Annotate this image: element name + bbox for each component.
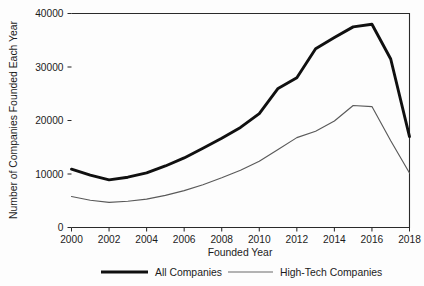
y-axis-title: Number of Companies Founded Each Year — [8, 20, 19, 219]
line-chart: 010000200003000040000 200020022004200620… — [0, 0, 424, 286]
y-tick-label: 10000 — [35, 169, 64, 180]
y-tick-label: 20000 — [35, 115, 64, 126]
x-tick-label: 2012 — [285, 234, 308, 245]
x-tick-label: 2000 — [60, 234, 83, 245]
chart-legend: All Companies High-Tech Companies — [101, 267, 382, 278]
y-tick-label: 30000 — [35, 62, 64, 73]
y-tick-label: 40000 — [35, 8, 64, 19]
x-axis-ticks — [72, 228, 410, 232]
x-axis-tick-labels: 2000200220042006200820102012201420162018 — [60, 234, 421, 245]
x-tick-label: 2018 — [398, 234, 421, 245]
y-tick-label: 0 — [58, 222, 64, 233]
y-axis-ticks — [68, 14, 72, 228]
x-tick-label: 2010 — [248, 234, 271, 245]
chart-figure: 010000200003000040000 200020022004200620… — [0, 0, 424, 286]
x-tick-label: 2002 — [98, 234, 121, 245]
x-tick-label: 2016 — [361, 234, 384, 245]
x-tick-label: 2008 — [210, 234, 233, 245]
series-line-high-tech-companies — [72, 106, 410, 203]
x-tick-label: 2006 — [173, 234, 196, 245]
plot-frame — [72, 14, 410, 228]
y-axis-tick-labels: 010000200003000040000 — [35, 8, 64, 233]
x-tick-label: 2004 — [135, 234, 158, 245]
series-line-all-companies — [72, 24, 410, 180]
x-tick-label: 2014 — [323, 234, 346, 245]
legend-label-all-companies: All Companies — [155, 267, 222, 278]
x-axis-title: Founded Year — [208, 247, 273, 258]
legend-label-high-tech-companies: High-Tech Companies — [280, 267, 382, 278]
